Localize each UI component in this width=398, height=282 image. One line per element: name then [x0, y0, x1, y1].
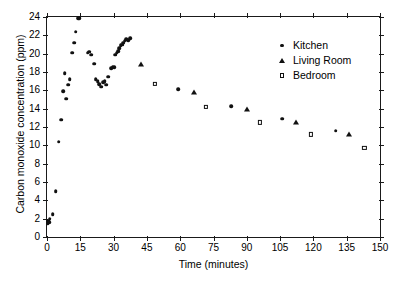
y-axis-tick [43, 109, 48, 110]
y-axis-tick [43, 200, 48, 201]
y-axis-tick [43, 145, 48, 146]
data-point-kitchen [68, 78, 72, 82]
y-axis-tick [43, 72, 48, 73]
x-axis-tick [80, 236, 81, 241]
y-axis-tick-label: 4 [34, 195, 40, 205]
x-axis-tick-label: 75 [208, 243, 219, 253]
chart-legend: Kitchen Living Room Bedroom [276, 38, 351, 83]
y-axis-tick [379, 219, 384, 220]
data-point-kitchen [62, 89, 66, 93]
y-axis-title: Carbon monoxide concentration (ppm) [14, 8, 26, 240]
y-axis-tick [43, 182, 48, 183]
data-point-kitchen [48, 217, 52, 221]
x-axis-tick [180, 236, 181, 241]
y-axis-tick [379, 109, 384, 110]
x-axis-tick [347, 13, 348, 18]
data-point-kitchen [57, 140, 61, 144]
x-axis-tick [313, 236, 314, 241]
data-point-kitchen [64, 97, 68, 101]
data-point-living-room [244, 106, 250, 111]
data-point-kitchen [105, 83, 109, 87]
x-axis-tick [313, 13, 314, 18]
x-axis-tick [47, 13, 48, 18]
x-axis-tick-label: 105 [272, 243, 289, 253]
x-axis-title: Time (minutes) [46, 258, 381, 270]
x-axis-tick-label: 15 [75, 243, 86, 253]
y-axis-tick-label: 20 [29, 49, 40, 59]
data-point-living-room [293, 120, 299, 125]
filled-circle-marker-icon [276, 44, 288, 48]
data-point-kitchen [51, 212, 55, 216]
data-point-bedroom [153, 82, 157, 86]
data-point-bedroom [204, 105, 208, 109]
co-concentration-scatter-chart: 0246810121416182022240153045607590105120… [0, 0, 398, 282]
x-axis-tick [380, 236, 381, 241]
y-axis-tick [379, 35, 384, 36]
x-axis-tick [147, 236, 148, 241]
x-axis-tick [47, 236, 48, 241]
x-axis-tick-label: 90 [241, 243, 252, 253]
data-point-kitchen [47, 221, 51, 225]
data-point-kitchen [128, 36, 132, 40]
y-axis-tick [43, 127, 48, 128]
x-axis-tick-label: 150 [372, 243, 389, 253]
y-axis-tick-label: 2 [34, 214, 40, 224]
y-axis-tick-label: 12 [29, 122, 40, 132]
y-axis-tick-label: 6 [34, 177, 40, 187]
x-axis-tick-label: 120 [305, 243, 322, 253]
y-axis-tick-label: 16 [29, 85, 40, 95]
data-point-kitchen [71, 51, 75, 55]
x-axis-tick [114, 13, 115, 18]
data-point-kitchen [89, 53, 93, 57]
data-point-bedroom [362, 146, 366, 150]
data-point-living-room [138, 61, 144, 66]
legend-item-bedroom: Bedroom [276, 68, 351, 83]
data-point-kitchen [106, 75, 110, 79]
y-axis-tick [379, 145, 384, 146]
y-axis-tick-label: 0 [34, 232, 40, 242]
x-axis-tick [280, 236, 281, 241]
data-point-kitchen [334, 129, 338, 133]
y-axis-tick [43, 54, 48, 55]
filled-triangle-marker-icon [276, 58, 288, 63]
data-point-kitchen [99, 85, 103, 89]
y-axis-tick-label: 8 [34, 159, 40, 169]
y-axis-tick [379, 72, 384, 73]
y-axis-tick [43, 90, 48, 91]
y-axis-tick [379, 90, 384, 91]
legend-item-living-room: Living Room [276, 53, 351, 68]
data-point-kitchen [63, 71, 67, 75]
data-point-living-room [191, 90, 197, 95]
y-axis-tick-label: 18 [29, 67, 40, 77]
x-axis-tick-label: 60 [175, 243, 186, 253]
data-point-kitchen [112, 66, 116, 70]
x-axis-tick [247, 236, 248, 241]
data-point-kitchen [74, 30, 78, 34]
x-axis-tick-label: 45 [141, 243, 152, 253]
data-point-kitchen [176, 88, 180, 92]
x-axis-tick-label: 30 [108, 243, 119, 253]
data-point-bedroom [258, 120, 262, 124]
x-axis-tick-label: 0 [44, 243, 50, 253]
y-axis-tick-label: 10 [29, 140, 40, 150]
x-axis-tick-label: 135 [338, 243, 355, 253]
data-point-kitchen [92, 62, 96, 66]
x-axis-tick [180, 13, 181, 18]
data-point-bedroom [309, 132, 313, 136]
y-axis-tick-label: 22 [29, 30, 40, 40]
data-point-kitchen [281, 117, 285, 121]
y-axis-tick [43, 35, 48, 36]
y-axis-tick [379, 127, 384, 128]
y-axis-tick [379, 182, 384, 183]
data-point-kitchen [59, 118, 63, 122]
data-point-kitchen [78, 16, 82, 20]
y-axis-tick [379, 164, 384, 165]
data-point-kitchen [54, 189, 58, 193]
legend-label: Living Room [293, 53, 351, 68]
y-axis-tick-label: 14 [29, 104, 40, 114]
x-axis-tick [380, 13, 381, 18]
data-point-kitchen [229, 104, 233, 108]
x-axis-tick [347, 236, 348, 241]
x-axis-tick [214, 236, 215, 241]
open-square-marker-icon [276, 73, 288, 77]
